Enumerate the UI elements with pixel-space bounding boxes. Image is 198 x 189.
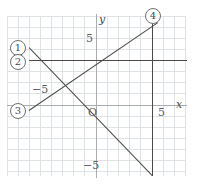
gridline-v (140, 16, 141, 176)
y-axis-label: y (99, 14, 105, 25)
callout-badge-3[interactable]: 3 (10, 103, 26, 119)
x-tick-label-neg5: −5 (32, 84, 48, 95)
x-axis-label: x (176, 99, 182, 110)
gridline-v (163, 16, 164, 176)
x-tick-label-5: 5 (158, 107, 165, 118)
gridline-v (7, 16, 8, 176)
origin-label: O (88, 107, 97, 118)
y-tick-label-5: 5 (86, 33, 93, 44)
gridline-v (107, 16, 108, 176)
gridline-v (84, 16, 85, 176)
coordinate-plane-figure: y x 5 −5 −5 5 O 1 2 3 4 (0, 0, 198, 189)
y-axis (96, 14, 97, 178)
gridline-v (62, 16, 63, 176)
callout-badge-2[interactable]: 2 (10, 54, 26, 70)
line-series-4 (152, 20, 153, 176)
gridline-v (174, 16, 175, 176)
gridline-v (185, 16, 186, 176)
callout-badge-4[interactable]: 4 (145, 8, 161, 24)
y-tick-label-neg5: −5 (83, 160, 99, 171)
gridline-v (40, 16, 41, 176)
gridline-v (29, 16, 30, 176)
gridline-v (118, 16, 119, 176)
line-series-2 (29, 60, 187, 61)
